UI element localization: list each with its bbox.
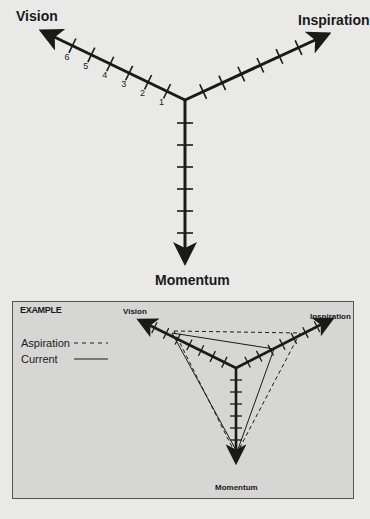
example-vision-axis bbox=[141, 321, 236, 368]
example-inspiration-axis bbox=[236, 320, 330, 368]
current-polygon bbox=[172, 333, 274, 452]
